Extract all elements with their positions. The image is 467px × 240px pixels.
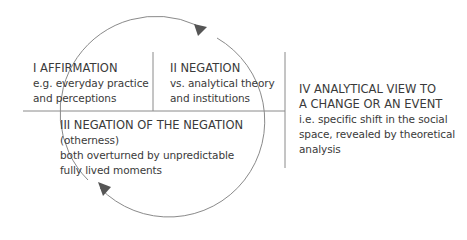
quadrant-negation-of-negation: III NEGATION OF THE NEGATION (otherness)… xyxy=(60,118,243,178)
quadrant-title: IV ANALYTICAL VIEW TO xyxy=(299,82,455,97)
quadrant-title: III NEGATION OF THE NEGATION xyxy=(60,118,243,133)
quadrant-line: e.g. everyday practice xyxy=(33,76,149,91)
quadrant-title: II NEGATION xyxy=(170,61,275,76)
quadrant-negation: II NEGATION vs. analytical theory and in… xyxy=(170,61,275,106)
quadrant-line: space, revealed by theoretical xyxy=(299,127,455,142)
quadrant-line: (otherness) xyxy=(60,133,243,148)
quadrant-title: I AFFIRMATION xyxy=(33,61,149,76)
top-right-arrow-icon xyxy=(194,24,207,36)
quadrant-analytical-view: IV ANALYTICAL VIEW TO A CHANGE OR AN EVE… xyxy=(299,82,455,157)
quadrant-line: both overturned by unpredictable xyxy=(60,148,243,163)
quadrant-line: i.e. specific shift in the social xyxy=(299,112,455,127)
quadrant-title: A CHANGE OR AN EVENT xyxy=(299,97,455,112)
quadrant-affirmation: I AFFIRMATION e.g. everyday practice and… xyxy=(33,61,149,106)
bottom-left-arrow-icon xyxy=(98,182,111,196)
quadrant-line: vs. analytical theory xyxy=(170,76,275,91)
quadrant-line: fully lived moments xyxy=(60,163,243,178)
quadrant-line: and perceptions xyxy=(33,91,149,106)
quadrant-line: and institutions xyxy=(170,91,275,106)
quadrant-line: analysis xyxy=(299,142,455,157)
